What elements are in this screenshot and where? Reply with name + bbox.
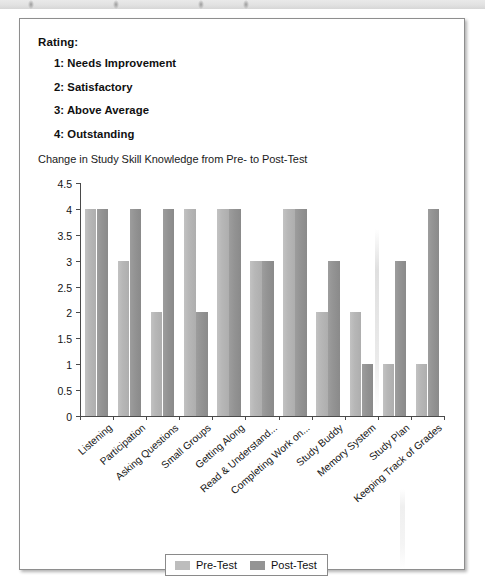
chart-legend: Pre-Test Post-Test <box>165 554 328 576</box>
x-axis-tick-mark <box>245 416 246 420</box>
x-axis-tick-mark <box>279 416 280 420</box>
y-axis-tick-label: 2.5 <box>44 283 72 294</box>
y-axis-tick-mark <box>76 287 80 288</box>
banner-smudge <box>113 0 119 9</box>
y-axis-tick-mark <box>76 209 80 210</box>
top-banner-strip <box>0 0 485 9</box>
x-axis-tick-mark <box>345 416 346 420</box>
banner-smudge <box>243 0 249 9</box>
bar-pre-test <box>383 364 395 416</box>
y-axis-tick-label: 2 <box>44 308 72 319</box>
x-axis-tick-mark <box>113 416 114 420</box>
bar-pre-test <box>350 312 362 416</box>
rating-scale-list: 1: Needs Improvement 2: Satisfactory 3: … <box>54 57 434 151</box>
legend-swatch-post-test <box>250 561 265 570</box>
y-axis-tick-label: 1.5 <box>44 334 72 345</box>
legend-label-post-test: Post-Test <box>271 559 317 571</box>
y-axis-line <box>80 183 81 416</box>
y-axis-tick-label: 0 <box>44 412 72 423</box>
bar-post-test <box>97 209 109 416</box>
legend-label-pre-test: Pre-Test <box>196 559 237 571</box>
banner-smudge <box>28 0 34 9</box>
y-axis-tick-mark <box>76 312 80 313</box>
bar-post-test <box>395 261 407 416</box>
rating-scale-item: 2: Satisfactory <box>54 81 434 93</box>
x-axis-tick-mark <box>378 416 379 420</box>
bar-pre-test <box>118 261 130 416</box>
bar-pre-test <box>283 209 295 416</box>
bar-pre-test <box>85 209 97 416</box>
bar-post-test <box>295 209 307 416</box>
rating-scale-item: 4: Outstanding <box>54 128 434 140</box>
content-card: Rating: 1: Needs Improvement 2: Satisfac… <box>19 18 465 570</box>
rating-heading: Rating: <box>38 36 78 48</box>
bar-pre-test <box>416 364 428 416</box>
x-axis-tick-mark <box>179 416 180 420</box>
x-axis-tick-mark <box>444 416 445 420</box>
bar-post-test <box>362 364 374 416</box>
legend-item-post-test: Post-Test <box>250 559 317 571</box>
rating-scale-item: 1: Needs Improvement <box>54 57 434 69</box>
y-axis-tick-mark <box>76 390 80 391</box>
bar-chart: 00.511.522.533.544.5ListeningParticipati… <box>34 177 452 562</box>
x-axis-line <box>80 416 444 417</box>
x-axis-tick-mark <box>411 416 412 420</box>
bar-post-test <box>262 261 274 416</box>
screenshot-page: Rating: 1: Needs Improvement 2: Satisfac… <box>0 0 485 588</box>
y-axis-tick-mark <box>76 338 80 339</box>
x-axis-tick-mark <box>312 416 313 420</box>
y-axis-tick-label: 4.5 <box>44 179 72 190</box>
bar-pre-test <box>184 209 196 416</box>
bar-pre-test <box>151 312 163 416</box>
bar-pre-test <box>316 312 328 416</box>
y-axis-tick-label: 1 <box>44 360 72 371</box>
x-axis-tick-mark <box>146 416 147 420</box>
bar-post-test <box>328 261 340 416</box>
y-axis-tick-label: 3 <box>44 257 72 268</box>
legend-swatch-pre-test <box>175 561 190 570</box>
chart-title: Change in Study Skill Knowledge from Pre… <box>38 153 307 165</box>
y-axis-tick-label: 3.5 <box>44 231 72 242</box>
bar-post-test <box>428 209 440 416</box>
bar-pre-test <box>250 261 262 416</box>
y-axis-tick-mark <box>76 183 80 184</box>
legend-item-pre-test: Pre-Test <box>175 559 237 571</box>
bar-post-test <box>229 209 241 416</box>
bar-post-test <box>196 312 208 416</box>
y-axis-tick-label: 0.5 <box>44 386 72 397</box>
x-axis-tick-mark <box>80 416 81 420</box>
y-axis-tick-mark <box>76 261 80 262</box>
y-axis-tick-label: 4 <box>44 205 72 216</box>
y-axis-tick-mark <box>76 364 80 365</box>
banner-smudge <box>198 0 204 9</box>
bar-pre-test <box>217 209 229 416</box>
x-axis-tick-mark <box>212 416 213 420</box>
x-axis-category-label: Memory System <box>315 422 378 479</box>
rating-scale-item: 3: Above Average <box>54 104 434 116</box>
y-axis-tick-mark <box>76 235 80 236</box>
bar-post-test <box>163 209 175 416</box>
bar-post-test <box>130 209 142 416</box>
